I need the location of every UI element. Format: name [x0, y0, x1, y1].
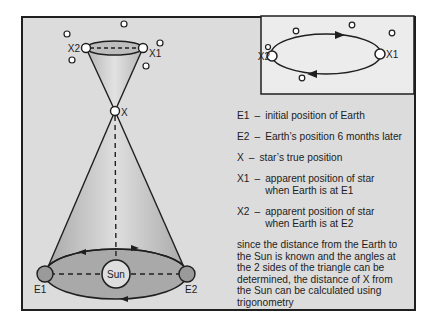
- star-icon: [349, 22, 355, 28]
- star-icon: [143, 63, 149, 69]
- star-icon: [389, 30, 395, 36]
- legend-item-x1: X1–apparent position of star when Earth …: [237, 173, 412, 197]
- legend-item-x2: X2–apparent position of star when Earth …: [237, 206, 412, 230]
- label-x2: X2: [68, 43, 81, 54]
- upper-cone: [86, 48, 143, 111]
- star-x: [111, 107, 120, 116]
- inset-panel: X2 X1: [258, 16, 414, 94]
- star-icon: [293, 28, 299, 34]
- label-x: X: [121, 107, 128, 118]
- inset-label-x1: X1: [386, 49, 399, 60]
- explanation-note: since the distance from the Earth to the…: [237, 239, 409, 308]
- star-icon: [121, 21, 127, 27]
- sun-label: Sun: [107, 269, 125, 280]
- label-e2: E2: [185, 284, 198, 295]
- earth-e2: [179, 266, 195, 282]
- legend-item-e2: E2–Earth’s position 6 months later: [237, 131, 412, 143]
- legend: E1–initial position of Earth E2–Earth’s …: [237, 110, 412, 308]
- legend-item-x: X–star’s true position: [237, 152, 412, 164]
- inset-star-x1: [375, 49, 385, 59]
- label-e1: E1: [34, 284, 47, 295]
- star-icon: [266, 45, 271, 50]
- legend-item-e1: E1–initial position of Earth: [237, 110, 412, 122]
- earth-e1: [37, 266, 53, 282]
- star-icon: [69, 57, 75, 63]
- star-icon: [64, 31, 70, 37]
- star-icon: [299, 75, 305, 81]
- label-x1: X1: [149, 48, 162, 59]
- star-x2: [82, 44, 91, 53]
- inset-label-x2: X2: [258, 51, 271, 62]
- star-x1: [139, 44, 148, 53]
- star-icon: [157, 40, 163, 46]
